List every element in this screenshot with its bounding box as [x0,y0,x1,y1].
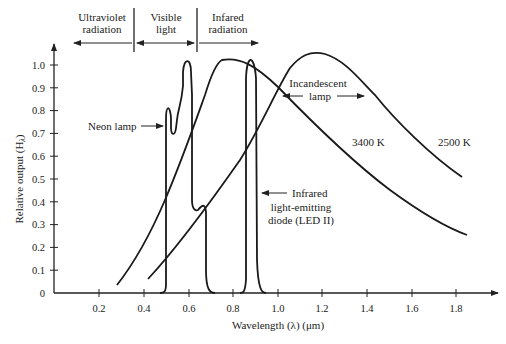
svg-text:1.8: 1.8 [449,303,462,314]
visible-label-line2: light [156,23,176,35]
annotations: Neon lamp Incandescent lamp 3400 K 2500 … [88,77,471,227]
svg-text:0.9: 0.9 [32,83,45,94]
y-tick-labels: 0 0.1 0.2 0.3 0.4 0.5 0.6 0.7 0.8 0.9 1.… [32,60,46,299]
svg-text:1.0: 1.0 [271,303,284,314]
uv-label-line2: radiation [82,23,122,35]
svg-text:1.6: 1.6 [405,303,418,314]
svg-text:0.2: 0.2 [92,303,105,314]
svg-text:0.3: 0.3 [32,219,45,230]
uv-label-line1: Ultraviolet [78,11,126,23]
led-label-line3: diode (LED II) [268,214,334,227]
curve-neon-lamp [160,61,215,293]
svg-text:0.6: 0.6 [32,151,45,162]
ir-label-line1: Infared [212,11,244,23]
led-label-line2: light-emitting [271,201,332,213]
svg-text:0.7: 0.7 [32,128,45,139]
led-label-line1: Infrared [292,187,328,199]
svg-text:0.5: 0.5 [32,174,45,185]
ir-label-line2: radiation [208,23,248,35]
svg-text:0.8: 0.8 [226,303,239,314]
svg-text:0.4: 0.4 [137,303,151,314]
spectrum-regions: Ultraviolet radiation Visible light Infa… [74,8,258,52]
y-axis-label: Relative output (Hλ) [13,134,27,223]
svg-text:0.6: 0.6 [182,303,195,314]
svg-text:0.2: 0.2 [32,242,45,253]
svg-text:1.4: 1.4 [360,303,374,314]
x-axis-label: Wavelength (λ) (μm) [232,319,325,332]
label-3400k: 3400 K [352,136,385,148]
visible-label-line1: Visible [150,11,181,23]
curve-3400k [117,59,467,285]
svg-text:0.1: 0.1 [32,265,45,276]
label-2500k: 2500 K [438,136,471,148]
incandescent-label-line2: lamp [309,90,331,102]
svg-text:0.4: 0.4 [32,197,46,208]
svg-text:0: 0 [40,288,45,299]
spectral-output-chart: Ultraviolet radiation Visible light Infa… [0,0,506,344]
incandescent-label-line1: Incandescent [289,77,346,89]
svg-text:0.8: 0.8 [32,105,45,116]
curve-infrared-led [240,60,266,293]
neon-lamp-label: Neon lamp [88,120,137,132]
svg-text:1.2: 1.2 [315,303,328,314]
svg-text:1.0: 1.0 [32,60,45,71]
x-tick-labels: 0.2 0.4 0.6 0.8 1.0 1.2 1.4 1.6 1.8 [92,303,462,314]
